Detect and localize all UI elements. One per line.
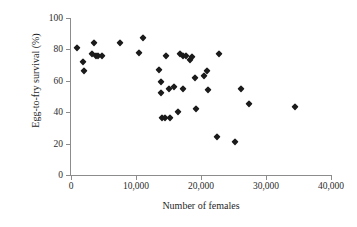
x-axis-tick-label: 10,000: [106, 181, 166, 191]
x-axis-tick-label: 0: [41, 181, 101, 191]
x-axis-tick: [71, 176, 72, 180]
y-axis-tick: [66, 49, 70, 50]
x-axis-tick: [331, 176, 332, 180]
y-axis-tick: [66, 112, 70, 113]
y-axis-tick: [66, 175, 70, 176]
x-axis-tick: [201, 176, 202, 180]
y-axis-tick: [66, 18, 70, 19]
x-axis-tick-label: 20,000: [171, 181, 231, 191]
x-axis-tick-label: 30,000: [236, 181, 296, 191]
x-axis-tick-label: 40,000: [301, 181, 357, 191]
y-axis-title: Egg-to-fry survival (%): [30, 6, 41, 156]
y-axis-tick: [66, 81, 70, 82]
plot-area: [71, 18, 331, 175]
y-axis-tick: [66, 144, 70, 145]
x-axis-tick: [266, 176, 267, 180]
y-axis-tick-label: 0: [33, 170, 63, 180]
x-axis-tick: [136, 176, 137, 180]
x-axis-title: Number of females: [71, 200, 331, 211]
scatter-plot-figure: 020406080100 010,00020,00030,00040,000 E…: [0, 0, 357, 227]
